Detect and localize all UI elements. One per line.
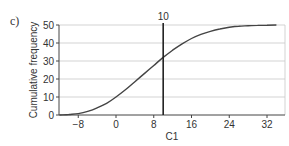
y-tick-label: 30	[43, 56, 55, 67]
vline-annotation: 10	[158, 11, 170, 115]
y-tick-label: 50	[43, 20, 55, 31]
y-tick-label: 10	[43, 92, 55, 103]
y-tick-label: 0	[48, 110, 54, 121]
panel-label: c)	[10, 14, 19, 28]
x-tick-label: 16	[186, 119, 198, 130]
x-tick-label: −8	[73, 119, 85, 130]
x-tick-label: 0	[113, 119, 119, 130]
x-tick-label: 24	[224, 119, 236, 130]
y-axis-ticks: 01020304050	[43, 20, 59, 121]
vline-label: 10	[158, 11, 170, 22]
cumulative-frequency-chart: c) 01020304050 −808162432 10 C1 Cumulati…	[0, 0, 289, 146]
axes	[59, 25, 285, 115]
y-tick-label: 40	[43, 38, 55, 49]
x-tick-label: 32	[261, 119, 273, 130]
x-axis-title: C1	[166, 131, 179, 142]
x-axis-ticks: −808162432	[73, 115, 273, 130]
y-tick-label: 20	[43, 74, 55, 85]
x-tick-label: 8	[151, 119, 157, 130]
gridlines	[59, 25, 285, 115]
cumulative-curve	[59, 25, 276, 115]
y-axis-title: Cumulative frequency	[28, 22, 39, 119]
